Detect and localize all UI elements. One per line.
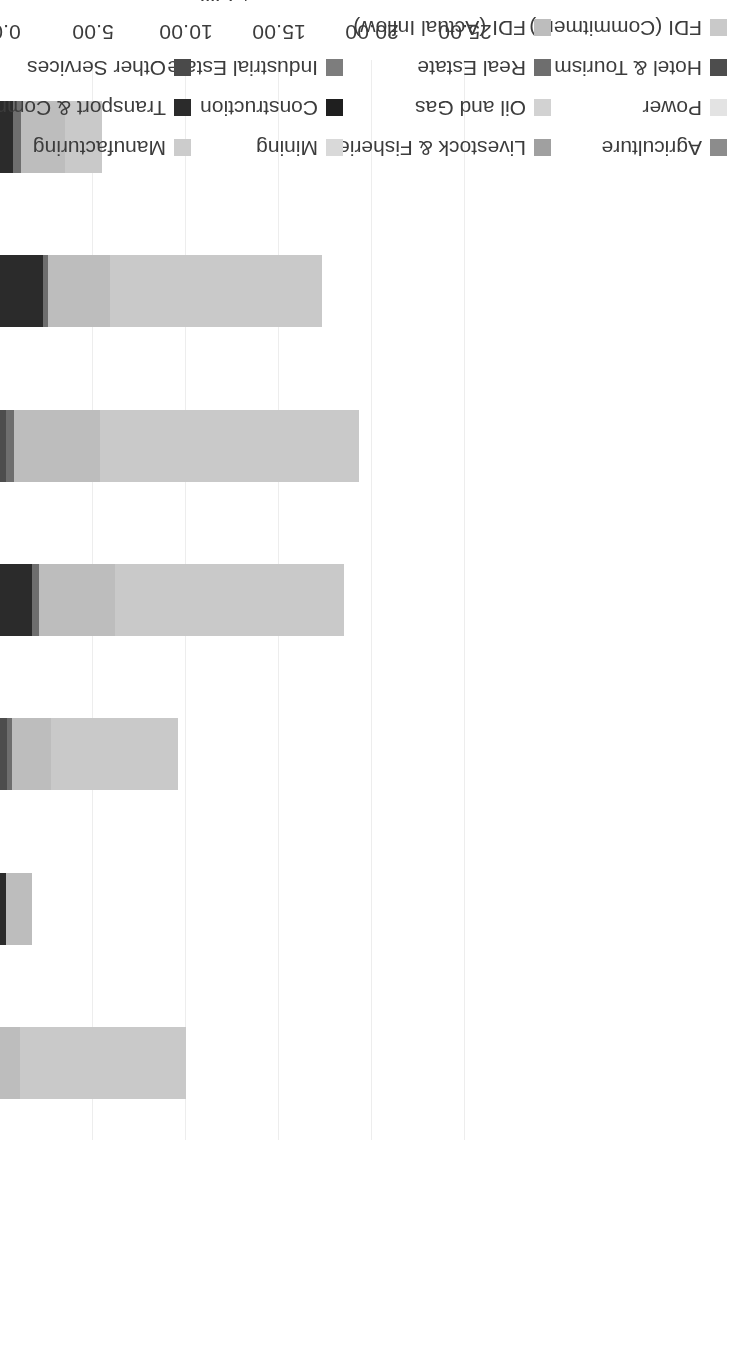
bar-segment bbox=[12, 718, 51, 790]
bar-segment bbox=[51, 718, 177, 790]
legend-swatch-icon bbox=[710, 20, 727, 37]
bar-segment bbox=[0, 255, 43, 327]
legend-label: FDI (Actual Inflow) bbox=[353, 16, 526, 40]
legend-label: Mining bbox=[256, 136, 318, 160]
value-axis-tick-label: 0.00 bbox=[0, 20, 21, 44]
legend-swatch-icon bbox=[710, 140, 727, 157]
legend-label: Other Services bbox=[27, 56, 166, 80]
legend-item[interactable]: Agriculture bbox=[602, 136, 727, 160]
legend-swatch-icon bbox=[174, 60, 191, 77]
bar-segment bbox=[14, 410, 100, 482]
legend-label: Hotel & Tourism bbox=[554, 56, 702, 80]
legend-label: FDI (Commitment) bbox=[529, 16, 702, 40]
legend-item[interactable]: FDI (Commitment) bbox=[529, 16, 727, 40]
legend-swatch-icon bbox=[174, 100, 191, 117]
legend-swatch-icon bbox=[326, 60, 343, 77]
legend-item[interactable]: Transport & Communication bbox=[0, 96, 191, 120]
bar-segment bbox=[48, 255, 109, 327]
bar-segment bbox=[0, 564, 32, 636]
bar-group bbox=[0, 718, 465, 790]
legend-label: Power bbox=[642, 96, 702, 120]
legend-item[interactable]: Power bbox=[642, 96, 727, 120]
legend-label: Oil and Gas bbox=[415, 96, 526, 120]
bar-segment bbox=[110, 255, 322, 327]
legend-swatch-icon bbox=[174, 140, 191, 157]
legend-label: Manufacturing bbox=[33, 136, 166, 160]
legend-item[interactable]: Manufacturing bbox=[33, 136, 191, 160]
value-axis-tick-label: 10.00 bbox=[159, 20, 213, 44]
bar-group bbox=[0, 255, 465, 327]
bar-segment bbox=[100, 410, 359, 482]
bar-group bbox=[0, 564, 465, 636]
legend-swatch-icon bbox=[534, 20, 551, 37]
plot-area: 0.005.0010.0015.0020.0025.002011/122012/… bbox=[0, 60, 465, 1140]
bar-segment bbox=[32, 564, 39, 636]
bar-segment bbox=[6, 410, 14, 482]
value-axis-tick-label: 15.00 bbox=[252, 20, 306, 44]
legend-item[interactable]: FDI (Actual Inflow) bbox=[353, 16, 551, 40]
bar-segment bbox=[115, 564, 344, 636]
rotated-figure-wrapper: 0.005.0010.0015.0020.0025.002011/122012/… bbox=[0, 0, 747, 1346]
bar-group bbox=[0, 410, 465, 482]
legend-item[interactable]: Hotel & Tourism bbox=[554, 56, 727, 80]
legend-swatch-icon bbox=[326, 140, 343, 157]
legend-item[interactable]: Oil and Gas bbox=[415, 96, 551, 120]
bar-segment bbox=[20, 1027, 186, 1099]
legend-item[interactable]: Industrial Estate bbox=[167, 56, 343, 80]
legend-label: Transport & Communication bbox=[0, 96, 166, 120]
bar-segment bbox=[0, 1027, 20, 1099]
legend-swatch-icon bbox=[710, 60, 727, 77]
legend-swatch-icon bbox=[534, 60, 551, 77]
legend-item[interactable]: Livestock & Fisheries bbox=[328, 136, 551, 160]
legend-item[interactable]: Real Estate bbox=[417, 56, 551, 80]
legend-label: Agriculture bbox=[602, 136, 702, 160]
legend-item[interactable]: Other Services bbox=[27, 56, 191, 80]
bar-segment bbox=[6, 873, 32, 945]
legend-swatch-icon bbox=[534, 140, 551, 157]
legend-label: Real Estate bbox=[417, 56, 526, 80]
legend-swatch-icon bbox=[326, 100, 343, 117]
legend-swatch-icon bbox=[534, 100, 551, 117]
bar-segment bbox=[0, 718, 7, 790]
value-axis-title: US $ billion bbox=[83, 0, 383, 4]
legend-item[interactable]: Construction bbox=[200, 96, 343, 120]
legend-item[interactable]: Mining bbox=[256, 136, 343, 160]
legend-label: Livestock & Fisheries bbox=[328, 136, 526, 160]
bar-group bbox=[0, 873, 465, 945]
value-axis-tick-label: 5.00 bbox=[72, 20, 114, 44]
legend-label: Construction bbox=[200, 96, 318, 120]
stacked-bar-chart: 0.005.0010.0015.0020.0025.002011/122012/… bbox=[0, 0, 747, 1346]
bar-group bbox=[0, 1027, 465, 1099]
legend-swatch-icon bbox=[710, 100, 727, 117]
bar-segment bbox=[39, 564, 115, 636]
